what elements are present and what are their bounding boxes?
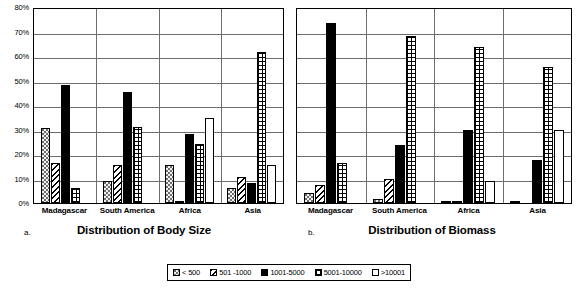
legend-label: 1001-5000	[270, 268, 304, 277]
y-tick-label: 0%	[19, 200, 29, 208]
bar	[337, 163, 347, 203]
bar	[123, 92, 132, 203]
legend-label: 501 -1000	[219, 268, 251, 277]
x-tick-label: South America	[96, 205, 159, 219]
bar-group	[159, 9, 221, 203]
caption-row-a: a. Distribution of Body Size	[0, 224, 288, 246]
y-tick-label: 10%	[15, 176, 29, 184]
bar	[51, 163, 60, 203]
bar-group	[434, 9, 503, 203]
x-tick-label: Africa	[159, 205, 222, 219]
figure-container: 0%10%20%30%40%50%60%70%80% MadagascarSou…	[0, 0, 576, 296]
y-axis-labels-a: 0%10%20%30%40%50%60%70%80%	[0, 8, 32, 204]
x-tick-label: South America	[365, 205, 434, 219]
bar	[452, 201, 462, 203]
bar	[205, 118, 214, 203]
x-tick-label: Africa	[434, 205, 503, 219]
y-tick-label: 70%	[15, 29, 29, 37]
legend-label: < 500	[182, 268, 200, 277]
y-tick-label: 20%	[15, 151, 29, 159]
y-tick-label: 30%	[15, 127, 29, 135]
bar	[474, 47, 484, 203]
bar	[485, 181, 495, 203]
legend-label: 5001-10000	[324, 268, 362, 277]
bar	[532, 160, 542, 203]
legend-item: 1001-5000	[261, 268, 304, 277]
x-tick-label: Madagascar	[33, 205, 96, 219]
panel-caption-a: Distribution of Body Size	[0, 224, 288, 236]
bar	[315, 185, 325, 203]
bar	[165, 165, 174, 203]
plot-wrap-a: 0%10%20%30%40%50%60%70%80% MadagascarSou…	[0, 0, 288, 215]
bar-group	[297, 9, 366, 203]
bar	[373, 199, 383, 203]
legend-swatch-icon	[372, 269, 379, 276]
bar	[406, 36, 416, 203]
panel-caption-b: Distribution of Biomass	[288, 224, 576, 236]
bar	[395, 145, 405, 203]
legend-label: >10001	[381, 268, 405, 277]
bar	[441, 201, 451, 203]
legend-item: < 500	[173, 268, 200, 277]
bar-group	[503, 9, 572, 203]
bar-group	[221, 9, 283, 203]
bar	[543, 67, 553, 203]
x-axis-labels-a: MadagascarSouth AmericaAfricaAsia	[33, 205, 284, 219]
legend-item: >10001	[372, 268, 405, 277]
bar	[326, 23, 336, 203]
bar	[195, 144, 204, 203]
bar	[103, 181, 112, 203]
plot-wrap-b: MadagascarSouth AmericaAfricaAsia	[288, 0, 576, 215]
bar	[384, 179, 394, 204]
panel-biomass: MadagascarSouth AmericaAfricaAsia b. Dis…	[288, 0, 576, 252]
panels-row: 0%10%20%30%40%50%60%70%80% MadagascarSou…	[0, 0, 576, 252]
bar	[237, 177, 246, 203]
x-tick-label: Asia	[503, 205, 572, 219]
bar	[71, 188, 80, 203]
x-axis-labels-b: MadagascarSouth AmericaAfricaAsia	[296, 205, 572, 219]
plot-area-a	[33, 8, 284, 204]
bar	[227, 188, 236, 203]
bar-groups-a	[34, 9, 283, 203]
bar-groups-b	[297, 9, 571, 203]
bar-group	[34, 9, 96, 203]
bar	[510, 201, 520, 203]
y-tick-label: 50%	[15, 78, 29, 86]
y-tick-label: 80%	[15, 4, 29, 12]
bar	[133, 127, 142, 203]
y-tick-label: 60%	[15, 53, 29, 61]
bar	[41, 128, 50, 203]
bar-group	[96, 9, 158, 203]
chart-legend: < 500501 -10001001-50005001-10000>10001	[167, 264, 411, 281]
legend-item: 501 -1000	[210, 268, 251, 277]
y-tick-label: 40%	[15, 102, 29, 110]
caption-row-b: b. Distribution of Biomass	[288, 224, 576, 246]
bar	[463, 130, 473, 204]
bar-group	[366, 9, 435, 203]
bar	[267, 165, 276, 203]
legend-swatch-icon	[210, 269, 217, 276]
bar	[247, 183, 256, 203]
legend-item: 5001-10000	[315, 268, 362, 277]
bar	[61, 85, 70, 203]
bar	[175, 201, 184, 203]
bar	[257, 52, 266, 203]
x-tick-label: Madagascar	[296, 205, 365, 219]
legend-swatch-icon	[315, 269, 322, 276]
legend-swatch-icon	[261, 269, 268, 276]
plot-area-b	[296, 8, 572, 204]
bar	[185, 134, 194, 203]
bar	[304, 193, 314, 203]
legend-swatch-icon	[173, 269, 180, 276]
panel-body-size: 0%10%20%30%40%50%60%70%80% MadagascarSou…	[0, 0, 288, 252]
bar	[554, 130, 564, 204]
bar	[113, 165, 122, 203]
x-tick-label: Asia	[221, 205, 284, 219]
